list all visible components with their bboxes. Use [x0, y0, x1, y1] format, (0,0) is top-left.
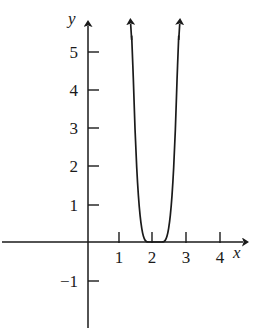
y-tick-label-4: 4 — [56, 82, 78, 99]
curve-left-arrow — [131, 24, 132, 40]
x-tick-label-2: 2 — [142, 249, 162, 266]
curve — [132, 36, 179, 242]
y-tick-label-1: 1 — [56, 197, 78, 214]
x-tick-label-3: 3 — [176, 249, 196, 266]
y-tick-label-5: 5 — [56, 44, 78, 61]
x-tick-label-1: 1 — [109, 249, 129, 266]
curve-right-arrow — [179, 24, 180, 40]
graph-figure: y x 5 4 3 2 1 −1 1 2 3 4 — [0, 0, 254, 328]
y-tick-label-minus-1: −1 — [46, 273, 78, 290]
y-tick-label-2: 2 — [56, 158, 78, 175]
y-axis-label: y — [68, 10, 76, 27]
plot-canvas — [0, 0, 254, 328]
x-axis-label: x — [233, 244, 241, 261]
y-tick-label-3: 3 — [56, 120, 78, 137]
x-tick-label-4: 4 — [210, 249, 230, 266]
